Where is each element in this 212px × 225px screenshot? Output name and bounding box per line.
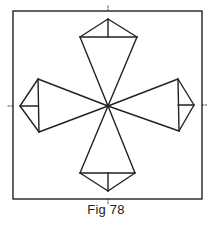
kite-left bbox=[20, 79, 108, 132]
kite-top bbox=[80, 19, 137, 106]
kite-tip-side bbox=[178, 79, 194, 105]
kite-arm bbox=[108, 106, 179, 131]
kite-tip-side bbox=[80, 173, 108, 191]
figure-caption: Fig 78 bbox=[0, 202, 212, 217]
kite-arm bbox=[80, 37, 108, 106]
kite-tip-side bbox=[108, 19, 137, 37]
kite-arm bbox=[39, 106, 108, 132]
figure-canvas bbox=[0, 0, 212, 225]
kite-arm bbox=[108, 79, 178, 106]
kite-shapes bbox=[20, 19, 194, 191]
kite-arm bbox=[80, 106, 108, 173]
kite-arm bbox=[108, 106, 135, 173]
kite-arm bbox=[108, 37, 137, 106]
kite-bottom bbox=[80, 106, 135, 191]
kite-tip-side bbox=[20, 106, 39, 132]
kite-right bbox=[108, 79, 194, 131]
kite-tip-side bbox=[179, 105, 194, 131]
kite-arm bbox=[38, 79, 108, 106]
kite-tip-side bbox=[20, 79, 38, 106]
center-point bbox=[107, 105, 109, 107]
kite-tip-side bbox=[80, 19, 108, 37]
kite-tip-side bbox=[108, 173, 135, 191]
